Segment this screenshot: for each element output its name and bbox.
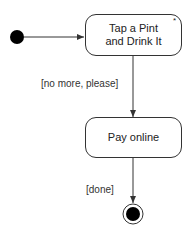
final-node-dot xyxy=(126,207,140,221)
asterisk-marker: * xyxy=(173,17,176,25)
state-label: Pay online xyxy=(108,131,159,144)
guard-no-more-please: [no more, please] xyxy=(41,78,118,89)
state-tap-a-pint[interactable]: * Tap a Pint and Drink It xyxy=(85,14,182,56)
initial-node xyxy=(10,30,24,44)
guard-done: [done] xyxy=(86,184,114,195)
state-pay-online[interactable]: Pay online xyxy=(85,117,182,158)
state-label-line1: Tap a Pint xyxy=(105,22,161,35)
state-label-line2: and Drink It xyxy=(105,35,161,48)
